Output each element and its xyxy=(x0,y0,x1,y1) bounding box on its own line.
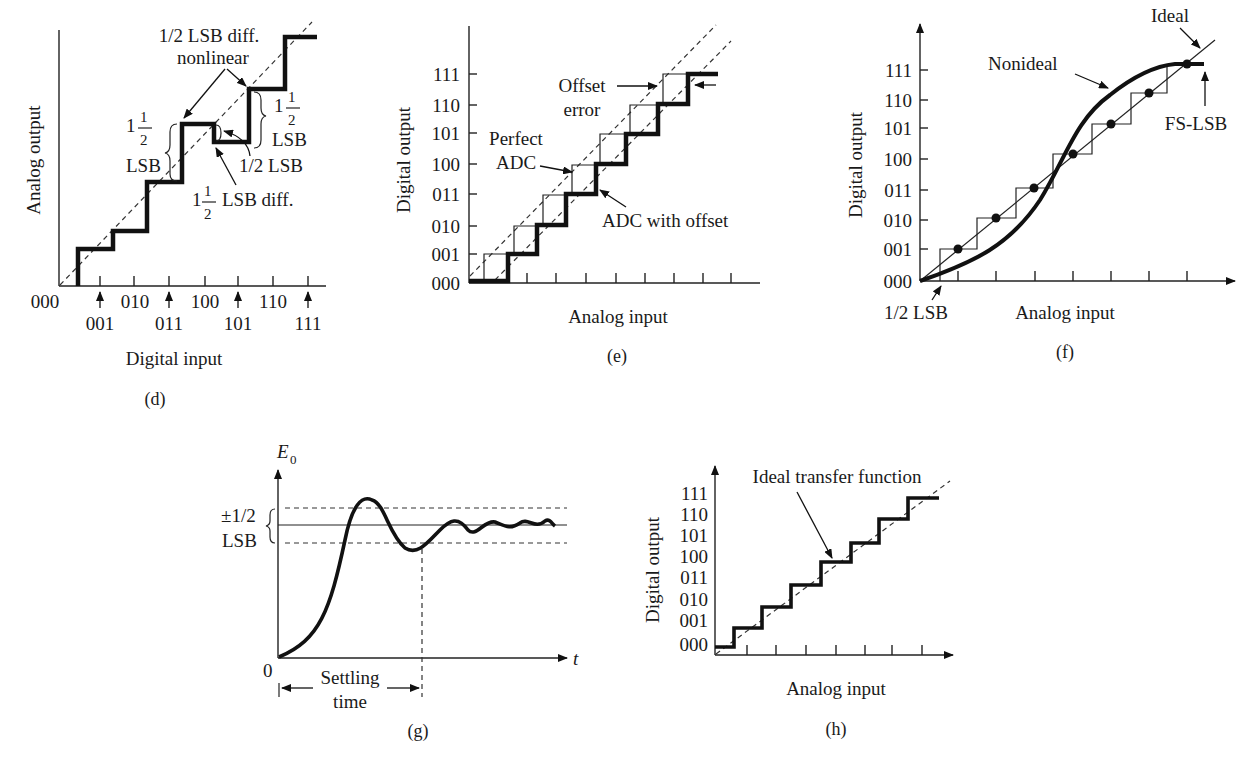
x-ticks xyxy=(747,645,922,655)
y-label-001: 001 xyxy=(680,610,709,631)
y-label-001: 001 xyxy=(884,239,913,260)
y-label-100: 100 xyxy=(680,546,709,567)
annot-error: error xyxy=(564,99,602,120)
annot-right-lsb: LSB xyxy=(272,129,307,150)
y-label-110: 110 xyxy=(680,504,708,525)
panel-h-ideal-transfer: 111 110 101 100 011 010 001 000 Ideal tr… xyxy=(642,466,953,740)
y-axis-title: Analog output xyxy=(23,105,44,215)
annot-band-pm: ±1/2 xyxy=(221,505,256,526)
annot-left-whole: 1 xyxy=(126,115,136,136)
y-label-001: 001 xyxy=(432,244,461,265)
x-label-000: 000 xyxy=(31,291,60,312)
annot-left-den: 2 xyxy=(140,132,148,148)
panel-g-settling-time: E 0 t 0 ±1/2 LSB Settling time (g) xyxy=(221,441,579,742)
annot-adc-with-offset: ADC with offset xyxy=(602,210,729,231)
y-axis-title: Digital output xyxy=(845,111,866,218)
x-axis-title: Analog input xyxy=(1015,302,1115,323)
y-ticks xyxy=(469,74,477,254)
y-label-111: 111 xyxy=(885,60,912,81)
x-ticks xyxy=(527,273,731,283)
x-label-011: 011 xyxy=(155,313,183,334)
y-axis-title: E xyxy=(276,441,289,462)
origin-label: 0 xyxy=(263,660,273,681)
y-label-111: 111 xyxy=(681,483,708,504)
y-axis-title: Digital output xyxy=(642,516,663,623)
caption-h: (h) xyxy=(826,719,847,740)
y-label-110: 110 xyxy=(432,95,460,116)
y-label-111: 111 xyxy=(433,64,460,85)
annot-nonlinear: nonlinear xyxy=(177,47,249,68)
panel-e-offset-error: 111 110 101 100 011 010 001 000 Offset e… xyxy=(393,25,760,367)
x-axis-title: Digital input xyxy=(126,348,223,369)
x-label-001: 001 xyxy=(86,313,115,334)
annot-settling: Settling xyxy=(320,667,380,688)
y-label-011: 011 xyxy=(680,567,708,588)
annot-left-num: 1 xyxy=(140,109,148,125)
small-brace xyxy=(216,125,221,141)
y-ticks xyxy=(920,70,928,249)
band-brace xyxy=(266,509,275,543)
y-label-010: 010 xyxy=(432,216,461,237)
left-brace xyxy=(165,124,177,181)
y-label-000: 000 xyxy=(680,634,709,655)
ideal-line xyxy=(920,40,1215,281)
annot-half-lsb: 1/2 LSB xyxy=(884,302,948,323)
x-label-101: 101 xyxy=(224,313,253,334)
annot-ideal: Ideal xyxy=(1151,5,1189,26)
x-ticks xyxy=(958,271,1187,281)
y-label-110: 110 xyxy=(884,90,912,111)
x-ticks xyxy=(100,276,308,286)
right-brace xyxy=(254,92,266,148)
y-label-011: 011 xyxy=(884,180,912,201)
y-label-010: 010 xyxy=(884,210,913,231)
x-axis-title: Analog input xyxy=(786,678,886,699)
caption-f: (f) xyxy=(1056,342,1074,363)
annot-ideal-transfer: Ideal transfer function xyxy=(753,466,922,487)
caption-d: (d) xyxy=(145,389,166,410)
y-label-100: 100 xyxy=(432,154,461,175)
annot-half-lsb-diff: 1/2 LSB diff. xyxy=(159,25,259,46)
annot-right-num: 1 xyxy=(288,89,296,105)
y-label-101: 101 xyxy=(884,118,913,139)
annot-offset: Offset xyxy=(558,75,606,96)
perfect-dashed-line xyxy=(470,25,716,276)
annot-adc: ADC xyxy=(496,152,536,173)
annot-right-whole: 1 xyxy=(274,95,284,116)
annot-half-lsb: 1/2 LSB xyxy=(239,155,303,176)
y-label-000: 000 xyxy=(432,273,461,294)
y-axis-title: Digital output xyxy=(393,106,414,213)
annot-band-lsb: LSB xyxy=(222,530,257,551)
y-label-010: 010 xyxy=(680,589,709,610)
x-axis-title: t xyxy=(573,648,579,669)
response-curve xyxy=(279,499,555,657)
annot-diff-text: LSB diff. xyxy=(222,189,293,210)
annot-nonideal: Nonideal xyxy=(988,53,1058,74)
x-axis-title: Analog input xyxy=(568,306,668,327)
x-label-111: 111 xyxy=(294,313,321,334)
y-label-101: 101 xyxy=(680,525,709,546)
caption-g: (g) xyxy=(408,721,429,742)
y-label-101: 101 xyxy=(432,123,461,144)
caption-e: (e) xyxy=(607,346,627,367)
x-label-010: 010 xyxy=(121,291,150,312)
y-label-011: 011 xyxy=(432,184,460,205)
x-label-100: 100 xyxy=(191,291,220,312)
annot-diff-num: 1 xyxy=(204,183,212,199)
y-axis-subscript: 0 xyxy=(290,452,297,467)
panel-f-nonlinearity: 111 110 101 100 011 010 001 000 Ideal No… xyxy=(845,5,1235,363)
annot-diff-whole: 1 xyxy=(192,189,202,210)
annot-fs-lsb: FS-LSB xyxy=(1165,113,1227,134)
y-label-000: 000 xyxy=(884,271,913,292)
annot-diff-den: 2 xyxy=(204,206,212,222)
panel-d-dac-nonlinearity: 000 010 100 110 001 011 101 111 Digital … xyxy=(23,22,326,410)
annot-right-den: 2 xyxy=(288,112,296,128)
annot-perfect: Perfect xyxy=(489,128,544,149)
y-label-100: 100 xyxy=(884,149,913,170)
annot-left-lsb: LSB xyxy=(126,155,161,176)
annot-time: time xyxy=(333,691,367,712)
x-label-110: 110 xyxy=(259,291,287,312)
